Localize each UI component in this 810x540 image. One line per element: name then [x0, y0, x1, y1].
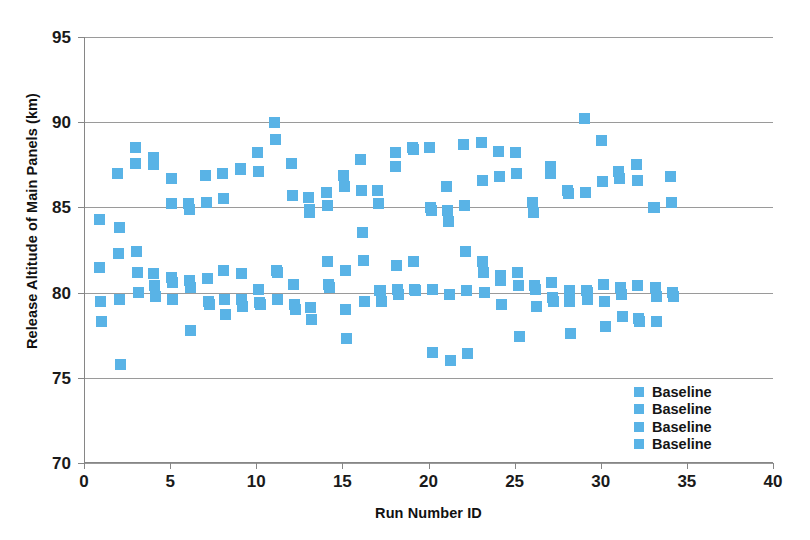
legend: BaselineBaselineBaselineBaseline — [634, 383, 764, 453]
legend-swatch-icon — [634, 387, 644, 397]
data-point-marker — [393, 289, 404, 300]
legend-swatch-icon — [634, 439, 644, 449]
data-point-marker — [391, 260, 402, 271]
y-tick-mark — [78, 378, 85, 379]
data-point-marker — [304, 207, 315, 218]
y-axis-title: Release Altitude of Main Panels (km) — [24, 11, 40, 431]
data-point-marker — [373, 198, 384, 209]
data-point-marker — [565, 328, 576, 339]
data-point-marker — [617, 311, 628, 322]
data-point-marker — [408, 256, 419, 267]
data-point-marker — [237, 301, 248, 312]
data-point-marker — [580, 187, 591, 198]
data-point-marker — [115, 359, 126, 370]
data-point-marker — [459, 200, 470, 211]
data-point-marker — [130, 158, 141, 169]
y-gridline — [85, 37, 773, 38]
legend-item-label: Baseline — [652, 385, 712, 400]
data-point-marker — [614, 173, 625, 184]
data-point-marker — [322, 256, 333, 267]
data-point-marker — [288, 279, 299, 290]
data-point-marker — [150, 291, 161, 302]
data-point-marker — [476, 137, 487, 148]
y-tick-mark — [78, 37, 85, 38]
data-point-marker — [494, 171, 505, 182]
data-point-marker — [651, 291, 662, 302]
x-tick-mark — [84, 463, 85, 469]
data-point-marker — [510, 147, 521, 158]
data-point-marker — [668, 291, 679, 302]
data-point-marker — [217, 168, 228, 179]
data-point-marker — [359, 296, 370, 307]
data-point-marker — [477, 175, 488, 186]
data-point-marker — [255, 299, 266, 310]
data-point-marker — [148, 159, 159, 170]
data-point-marker — [94, 214, 105, 225]
data-point-marker — [598, 279, 609, 290]
data-point-marker — [512, 267, 523, 278]
data-point-marker — [528, 207, 539, 218]
y-gridline — [85, 378, 773, 379]
data-point-marker — [148, 268, 159, 279]
legend-item[interactable]: Baseline — [634, 418, 764, 436]
data-point-marker — [460, 246, 471, 257]
x-tick-label: 40 — [751, 473, 795, 490]
data-point-marker — [495, 275, 506, 286]
data-point-marker — [390, 161, 401, 172]
x-tick-label: 20 — [407, 473, 451, 490]
legend-item[interactable]: Baseline — [634, 401, 764, 419]
data-point-marker — [513, 280, 524, 291]
legend-item[interactable]: Baseline — [634, 436, 764, 454]
x-tick-label: 0 — [62, 473, 106, 490]
data-point-marker — [131, 246, 142, 257]
data-point-marker — [184, 204, 195, 215]
data-point-marker — [133, 287, 144, 298]
data-point-marker — [272, 267, 283, 278]
data-point-marker — [340, 304, 351, 315]
data-point-marker — [202, 273, 213, 284]
data-point-marker — [290, 304, 301, 315]
data-point-marker — [358, 255, 369, 266]
data-point-marker — [548, 296, 559, 307]
x-tick-label: 25 — [493, 473, 537, 490]
data-point-marker — [634, 316, 645, 327]
data-point-marker — [341, 333, 352, 344]
data-point-marker — [340, 265, 351, 276]
data-point-marker — [185, 325, 196, 336]
data-point-marker — [132, 267, 143, 278]
data-point-marker — [218, 193, 229, 204]
y-tick-label: 70 — [25, 455, 71, 472]
data-point-marker — [632, 175, 643, 186]
data-point-marker — [114, 294, 125, 305]
data-point-marker — [219, 294, 230, 305]
data-point-marker — [200, 170, 211, 181]
data-point-marker — [166, 173, 177, 184]
data-point-marker — [546, 277, 557, 288]
data-point-marker — [356, 185, 367, 196]
data-point-marker — [444, 289, 455, 300]
data-point-marker — [130, 142, 141, 153]
data-point-marker — [166, 198, 177, 209]
x-tick-mark — [687, 463, 688, 469]
data-point-marker — [514, 331, 525, 342]
x-tick-label: 5 — [148, 473, 192, 490]
y-tick-mark — [78, 207, 85, 208]
data-point-marker — [287, 190, 298, 201]
data-point-marker — [376, 296, 387, 307]
data-point-marker — [582, 294, 593, 305]
data-point-marker — [531, 301, 542, 312]
data-point-marker — [564, 296, 575, 307]
data-point-marker — [441, 181, 452, 192]
legend-item[interactable]: Baseline — [634, 383, 764, 401]
x-tick-mark — [342, 463, 343, 469]
data-point-marker — [665, 171, 676, 182]
data-point-marker — [322, 200, 333, 211]
data-point-marker — [479, 287, 490, 298]
data-point-marker — [324, 282, 335, 293]
data-point-marker — [270, 134, 281, 145]
data-point-marker — [390, 147, 401, 158]
data-point-marker — [545, 168, 556, 179]
data-point-marker — [303, 192, 314, 203]
data-point-marker — [443, 216, 454, 227]
data-point-marker — [305, 302, 316, 313]
